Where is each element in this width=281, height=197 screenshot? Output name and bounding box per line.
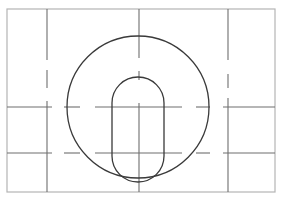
drawing-canvas <box>0 0 281 197</box>
technical-drawing <box>0 0 281 197</box>
vertical-slot <box>112 77 164 182</box>
